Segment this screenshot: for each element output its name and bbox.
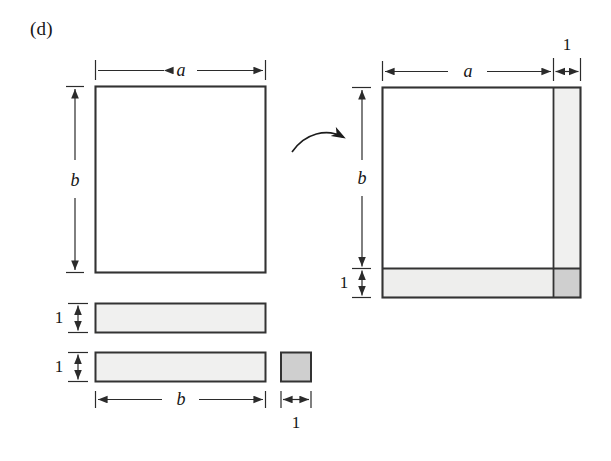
label-right-height-b: b [358,168,367,189]
label-left-unit-width: 1 [292,413,301,433]
label-left-height-b: b [71,170,80,191]
corner-unit-square [554,269,581,298]
label-right-width-a: a [464,61,473,82]
dim-right-1-height [352,271,371,298]
dim-left-unit-width [281,391,311,408]
rectangle-a-by-b [96,87,266,273]
dim-right-1-width [556,58,581,81]
label-left-strip1-height: 1 [55,308,64,328]
transformation-arrow [292,133,343,152]
label-left-strip2-height: 1 [55,357,64,377]
horizontal-strip-2 [96,353,266,382]
vertical-strip-right [554,88,581,269]
horizontal-strip-1 [96,304,266,333]
figure-drawing [0,0,611,461]
panel-label-d: (d) [30,18,53,40]
unit-square [281,353,311,382]
dim-left-strip1-height [68,304,88,333]
dim-left-strip2-height [68,353,88,382]
core-region-a-by-b [383,88,554,269]
label-left-strip-width-b: b [177,389,186,410]
label-right-height-1: 1 [340,273,349,293]
label-left-width-a: a [177,60,186,81]
horizontal-strip-bottom [383,269,554,298]
figure-panel-d: (d) a b 1 1 b 1 a 1 b 1 [0,0,611,461]
label-right-width-1: 1 [563,35,572,55]
